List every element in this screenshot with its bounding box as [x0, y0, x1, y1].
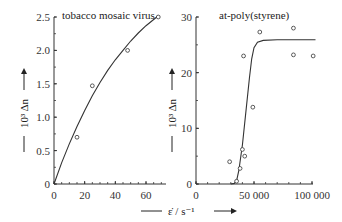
y-tick-label: 2.0 [36, 44, 50, 56]
left-panel: 00.51.01.52.02.5 0204060 tobacco mosaic … [18, 9, 166, 201]
data-point [292, 53, 296, 57]
right-y-label: 10³ Δn [166, 98, 178, 128]
left-fit-curve [54, 16, 158, 184]
left-y-arrow-icon [21, 68, 27, 74]
data-point [228, 160, 232, 164]
x-tick-label: 0 [193, 189, 199, 201]
y-tick-label: 1.0 [36, 111, 50, 123]
x-tick-label: 20 [79, 189, 91, 201]
data-point [242, 54, 246, 58]
x-label: ε̇ / s⁻¹ [168, 205, 195, 217]
shared-x-label-group: ε̇ / s⁻¹ [141, 205, 237, 217]
x-tick-label: 60 [141, 189, 153, 201]
data-point [90, 84, 94, 88]
data-point [241, 148, 245, 152]
data-point [292, 26, 296, 30]
y-tick-label: 10 [181, 122, 193, 134]
right-panel: 0102030 050 000100 000 at-poly(styrene) … [166, 9, 330, 201]
data-point [126, 49, 130, 53]
x-tick-label: 40 [110, 189, 122, 201]
y-tick-label: 0 [45, 178, 51, 190]
left-y-label: 10³ Δn [18, 98, 30, 128]
x-arrow-icon [231, 208, 237, 214]
x-tick-label: 0 [51, 189, 57, 201]
right-y-arrow-icon [169, 68, 175, 74]
right-fit-curve [231, 40, 316, 184]
data-point [156, 15, 160, 19]
y-tick-label: 2.5 [36, 11, 50, 23]
y-tick-label: 30 [181, 11, 193, 23]
y-tick-label: 1.5 [36, 78, 50, 90]
data-point [311, 54, 315, 58]
right-panel-title: at-poly(styrene) [219, 9, 290, 22]
x-tick-label: 100 000 [294, 189, 330, 201]
data-point [251, 105, 255, 109]
y-tick-label: 0 [187, 178, 193, 190]
x-tick-label: 50 000 [239, 189, 270, 201]
data-point [238, 167, 242, 171]
left-y-label-group: 10³ Δn [18, 68, 30, 152]
data-point [243, 154, 247, 158]
right-y-label-group: 10³ Δn [166, 68, 178, 152]
data-point [258, 30, 262, 34]
y-tick-label: 0.5 [36, 145, 50, 157]
data-point [235, 179, 239, 183]
data-point [75, 135, 79, 139]
left-data-points [75, 15, 160, 139]
chart-figure: 00.51.01.52.02.5 0204060 tobacco mosaic … [0, 0, 342, 222]
left-panel-title: tobacco mosaic virus [62, 9, 155, 21]
y-tick-label: 20 [181, 67, 193, 79]
